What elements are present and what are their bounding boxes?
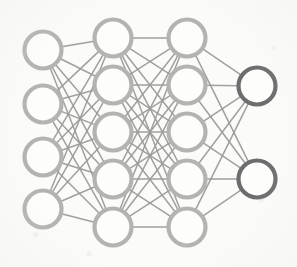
neuron-circle-light — [95, 161, 132, 198]
connection-edge — [60, 59, 96, 77]
neuron-circle-light — [95, 20, 132, 57]
neuron-node-h1_5[interactable] — [95, 209, 132, 246]
neural-network-figure — [0, 0, 297, 267]
connection-edge — [203, 96, 241, 121]
neuron-node-i1[interactable] — [25, 32, 62, 69]
neuron-node-h2_2[interactable] — [169, 67, 206, 104]
connection-edge — [62, 41, 94, 47]
neuron-circle-light — [25, 32, 62, 69]
neuron-node-h1_4[interactable] — [95, 161, 132, 198]
neuron-node-h2_3[interactable] — [169, 114, 206, 151]
neuron-node-h1_3[interactable] — [95, 114, 132, 151]
neuron-node-i2[interactable] — [25, 86, 62, 123]
connection-edge — [62, 214, 95, 222]
connection-edge — [203, 190, 242, 216]
neuron-node-h1_2[interactable] — [95, 67, 132, 104]
neuron-node-h2_1[interactable] — [169, 20, 206, 57]
neuron-node-i4[interactable] — [25, 191, 62, 228]
neuron-circle-light — [95, 114, 132, 151]
neuron-node-h2_4[interactable] — [169, 161, 206, 198]
neuron-circle-light — [169, 161, 206, 198]
neuron-node-o1[interactable] — [239, 68, 276, 105]
neuron-circle-light — [169, 20, 206, 57]
neuron-node-h2_5[interactable] — [169, 209, 206, 246]
neuron-circle-light — [95, 67, 132, 104]
neuron-circle-light — [25, 86, 62, 123]
neuron-circle-light — [25, 191, 62, 228]
neuron-circle-light — [25, 139, 62, 176]
connection-edges-group — [50, 38, 248, 227]
neuron-circle-light — [169, 114, 206, 151]
neuron-node-h1_1[interactable] — [95, 20, 132, 57]
network-diagram-svg — [0, 0, 297, 267]
neuron-circle-light — [95, 209, 132, 246]
connection-edge — [61, 187, 96, 202]
neuron-circle-light — [169, 67, 206, 104]
connection-edge — [203, 49, 242, 75]
neuron-node-o2[interactable] — [239, 161, 276, 198]
neuron-circle-dark — [239, 68, 276, 105]
neuron-node-i3[interactable] — [25, 139, 62, 176]
neuron-circle-dark — [239, 161, 276, 198]
neuron-circle-light — [169, 209, 206, 246]
